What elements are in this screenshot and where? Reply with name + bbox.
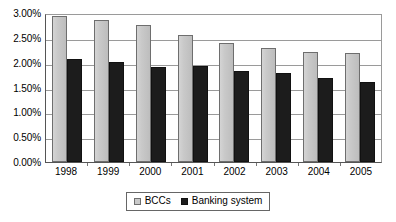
x-axis-tick-label: 2003 bbox=[256, 166, 298, 178]
x-axis-tick-label: 2005 bbox=[340, 166, 382, 178]
legend-box: BCCsBanking system bbox=[126, 192, 271, 211]
plot-area bbox=[45, 14, 382, 163]
legend-label: BCCs bbox=[145, 195, 171, 207]
x-axis-tick-label: 2002 bbox=[214, 166, 256, 178]
bar-bccs-2000[interactable] bbox=[136, 25, 151, 162]
bar-bccs-2001[interactable] bbox=[178, 35, 193, 162]
bar-banking-system-2003[interactable] bbox=[276, 73, 291, 162]
y-axis-tick-label: 2.00% bbox=[13, 59, 41, 69]
y-axis-tick-label: 0.50% bbox=[13, 133, 41, 143]
bar-banking-system-1998[interactable] bbox=[67, 59, 82, 162]
y-axis-tick-label: 1.00% bbox=[13, 108, 41, 118]
x-axis-tick-label: 2004 bbox=[298, 166, 340, 178]
bar-group bbox=[88, 15, 130, 162]
legend-item-bccs[interactable]: BCCs bbox=[134, 195, 171, 207]
bar-chart: 3.00%2.50%2.00%1.50%1.00%0.50%0.00% 1998… bbox=[0, 0, 396, 222]
x-axis-tick-label: 2000 bbox=[129, 166, 171, 178]
bar-group bbox=[339, 15, 381, 162]
legend-swatch-icon bbox=[181, 198, 188, 205]
bar-bccs-2002[interactable] bbox=[219, 43, 234, 162]
bar-bccs-2004[interactable] bbox=[303, 52, 318, 162]
x-axis: 19981999200020012002200320042005 bbox=[45, 166, 382, 178]
bar-group bbox=[214, 15, 256, 162]
plot-wrapper: 3.00%2.50%2.00%1.50%1.00%0.50%0.00% 1998… bbox=[0, 0, 396, 180]
x-axis-tick-label: 1998 bbox=[45, 166, 87, 178]
bar-banking-system-2004[interactable] bbox=[318, 78, 333, 162]
bar-bccs-2005[interactable] bbox=[345, 53, 360, 162]
y-axis-tick-label: 0.00% bbox=[13, 158, 41, 168]
x-axis-tick-label: 2001 bbox=[171, 166, 213, 178]
legend-item-banking-system[interactable]: Banking system bbox=[181, 195, 263, 207]
y-axis: 3.00%2.50%2.00%1.50%1.00%0.50%0.00% bbox=[0, 8, 44, 164]
bar-banking-system-2002[interactable] bbox=[234, 71, 249, 162]
bar-group bbox=[130, 15, 172, 162]
bars-layer bbox=[46, 15, 381, 162]
legend-swatch-icon bbox=[134, 198, 141, 205]
bar-group bbox=[46, 15, 88, 162]
x-axis-tick-label: 1999 bbox=[87, 166, 129, 178]
bar-banking-system-2001[interactable] bbox=[193, 66, 208, 162]
bar-bccs-1998[interactable] bbox=[52, 16, 67, 162]
bar-banking-system-2005[interactable] bbox=[360, 82, 375, 162]
bar-group bbox=[255, 15, 297, 162]
y-axis-tick-label: 1.50% bbox=[13, 84, 41, 94]
bar-bccs-1999[interactable] bbox=[94, 20, 109, 162]
bar-bccs-2003[interactable] bbox=[261, 48, 276, 162]
bar-group bbox=[297, 15, 339, 162]
legend-label: Banking system bbox=[192, 195, 263, 207]
y-axis-tick-label: 3.00% bbox=[13, 9, 41, 19]
bar-banking-system-1999[interactable] bbox=[109, 62, 124, 162]
y-axis-tick-label: 2.50% bbox=[13, 34, 41, 44]
legend: BCCsBanking system bbox=[0, 192, 396, 211]
bar-banking-system-2000[interactable] bbox=[151, 67, 166, 162]
bar-group bbox=[172, 15, 214, 162]
